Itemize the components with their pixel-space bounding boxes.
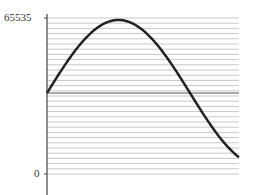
sine-chart: [0, 0, 256, 195]
grid-lines: [47, 18, 239, 174]
sine-curve: [47, 20, 239, 157]
y-tick-label-min: 0: [34, 167, 40, 179]
y-tick-label-max: 65535: [4, 11, 32, 23]
